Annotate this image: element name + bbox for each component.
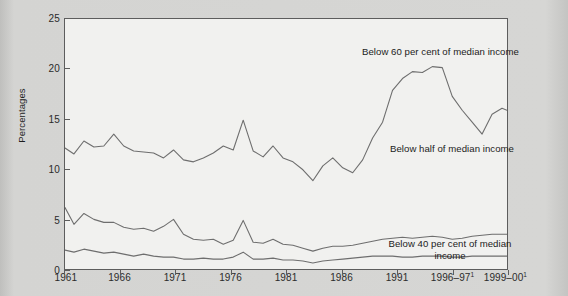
annotation-below-40-per-cent: Below 40 per cent of median income <box>386 238 514 261</box>
y-tick-mark-25 <box>64 18 70 19</box>
x-tick-label-1961: 1961 <box>54 272 77 283</box>
y-tick-mark-15 <box>64 119 70 120</box>
x-tick-mark-4 <box>286 270 287 275</box>
x-tick-footnote-marker: 1 <box>523 271 527 278</box>
y-axis-tick-labels: 2520151050 <box>26 18 60 270</box>
x-tick-mark-3 <box>231 270 232 275</box>
annotation-below-60-per-cent: Below 60 per cent of median income <box>362 46 519 58</box>
y-tick-label-20: 20 <box>48 63 60 74</box>
y-tick-mark-20 <box>64 68 70 69</box>
x-axis-tick-labels: 19611966197119761981198619911996–9711999… <box>0 272 568 292</box>
x-tick-footnote-marker: 1 <box>470 271 474 278</box>
x-tick-mark-5 <box>342 270 343 275</box>
y-tick-label-5: 5 <box>54 214 60 225</box>
y-axis-title: Percentages <box>16 71 27 161</box>
annotation-below-half: Below half of median income <box>390 143 514 155</box>
x-tick-mark-6 <box>397 270 398 275</box>
x-tick-mark-2 <box>175 270 176 275</box>
x-tick-mark-7 <box>453 270 454 275</box>
chart-figure: Percentages 2520151050 Below 60 per cent… <box>0 0 568 296</box>
y-tick-label-15: 15 <box>48 113 60 124</box>
x-tick-mark-8 <box>508 270 509 275</box>
y-tick-mark-10 <box>64 169 70 170</box>
y-tick-label-10: 10 <box>48 164 60 175</box>
line-below-60-per-cent <box>65 67 507 181</box>
x-tick-label-1999-00: 1999–001 <box>484 272 527 283</box>
y-tick-mark-5 <box>64 220 70 221</box>
y-tick-label-25: 25 <box>48 13 60 24</box>
x-tick-mark-1 <box>120 270 121 275</box>
x-tick-mark-0 <box>64 270 65 275</box>
